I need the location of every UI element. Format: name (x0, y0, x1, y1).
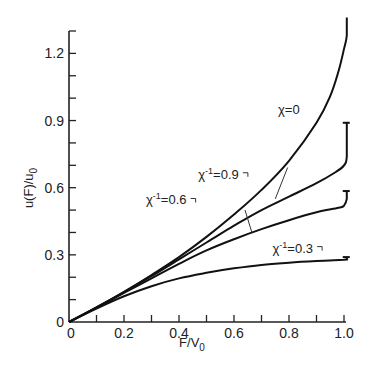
chart: 00.20.40.60.81.0 00.30.60.91.2 χ=0χ-1=0.… (0, 0, 367, 375)
leader-line-chi-1-0-9 (275, 168, 287, 199)
y-axis-title-sub: 0 (28, 167, 39, 173)
curve-chi-1-0-9 (69, 123, 347, 322)
x-axis-title: F/V0 (179, 335, 205, 353)
leader-line-chi-1-0-6 (245, 210, 252, 232)
label-hook-chi-1-0-3 (317, 247, 322, 251)
y-axis-title: u(F)/u0 (21, 167, 39, 208)
curve-label-chi-1-0-6: χ-1=0.6 (146, 191, 187, 207)
curve-label-chi-0: χ=0 (278, 102, 300, 117)
label-hook-chi-1-0-6 (191, 198, 196, 202)
y-tick-label: 0.6 (45, 180, 65, 196)
y-tick-label: 1.2 (45, 45, 65, 61)
axes (69, 31, 346, 322)
x-tick-label: 0.6 (224, 325, 244, 341)
x-tick-label: 0 (67, 325, 75, 341)
curve-chi-1-0-3 (69, 257, 347, 322)
y-tick-label: 0 (56, 314, 64, 330)
curve-label-chi-1-0-9: χ-1=0.9 (198, 166, 239, 182)
x-tick-label: 0.2 (114, 325, 134, 341)
x-ticks: 00.20.40.60.81.0 (67, 315, 354, 341)
y-ticks: 00.30.60.91.2 (45, 31, 76, 330)
x-axis-title-sub: 0 (199, 342, 205, 353)
label-hook-chi-1-0-9 (243, 173, 248, 177)
x-tick-label: 0.8 (279, 325, 299, 341)
x-tick-label: 1.0 (334, 325, 354, 341)
y-tick-label: 0.3 (45, 247, 65, 263)
curve-label-chi-1-0-3: χ-1=0.3 (273, 240, 314, 256)
y-tick-label: 0.9 (45, 113, 65, 129)
y-axis-title-main: u(F)/u (21, 173, 36, 208)
annotations: χ=0χ-1=0.9χ-1=0.6χ-1=0.3 (146, 102, 322, 256)
x-axis-title-main: F/V (179, 335, 200, 350)
